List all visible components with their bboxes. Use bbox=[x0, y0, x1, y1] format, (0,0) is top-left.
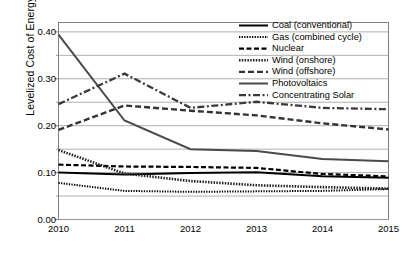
y-axis-tick-label: 0.40 bbox=[24, 27, 56, 37]
legend-label: Wind (offshore) bbox=[272, 67, 335, 76]
legend-label: Nuclear bbox=[272, 44, 304, 53]
y-axis-tick-label: 0.10 bbox=[24, 168, 56, 178]
legend-label: Wind (onshore) bbox=[272, 56, 336, 65]
x-axis-tick-label: 2011 bbox=[95, 224, 155, 234]
x-axis-tick-label: 2015 bbox=[359, 224, 404, 234]
legend-label: Concentrating Solar bbox=[272, 91, 354, 100]
x-axis-tick-label: 2014 bbox=[293, 224, 353, 234]
x-axis-tick-labels: 201020112012201320142015 bbox=[0, 224, 404, 238]
x-axis-tick-label: 2012 bbox=[161, 224, 221, 234]
y-axis-tick-label: 0.30 bbox=[24, 74, 56, 84]
y-axis-tick-label: 0.20 bbox=[24, 121, 56, 131]
legend-label: Photovoltaics bbox=[272, 79, 327, 88]
chart-figure: Levelized Cost of Energy ($/kWh) 0.000.1… bbox=[0, 0, 404, 261]
x-axis-tick-label: 2010 bbox=[29, 224, 89, 234]
legend-label: Coal (conventional) bbox=[272, 21, 352, 30]
figure-caption bbox=[24, 252, 354, 260]
legend-label: Gas (combined cycle) bbox=[272, 33, 362, 42]
x-axis-tick-label: 2013 bbox=[227, 224, 287, 234]
y-axis-tick-labels: 0.000.100.200.300.40 bbox=[20, 0, 56, 261]
